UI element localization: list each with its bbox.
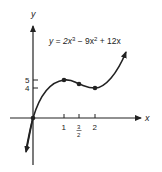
x-axis-label: x — [144, 113, 150, 123]
x-tick-1: 1 — [62, 123, 67, 132]
y-ticks: 5 4 — [25, 76, 38, 93]
cubic-function-graph: y x 1 3 2 2 5 4 y = 2x3 − 9x2 + 12x — [0, 0, 162, 172]
x-tick-3-2-den: 2 — [77, 132, 81, 138]
point-local-min — [93, 86, 98, 91]
x-tick-3-2-num: 3 — [77, 124, 81, 130]
point-inflection — [77, 82, 82, 87]
x-tick-2: 2 — [93, 123, 98, 132]
point-local-max — [62, 78, 67, 83]
equation-label: y = 2x3 − 9x2 + 12x — [48, 36, 121, 46]
cubic-curve — [26, 52, 126, 150]
y-tick-4: 4 — [25, 84, 30, 93]
y-axis-label: y — [30, 9, 36, 19]
point-origin — [31, 116, 36, 121]
